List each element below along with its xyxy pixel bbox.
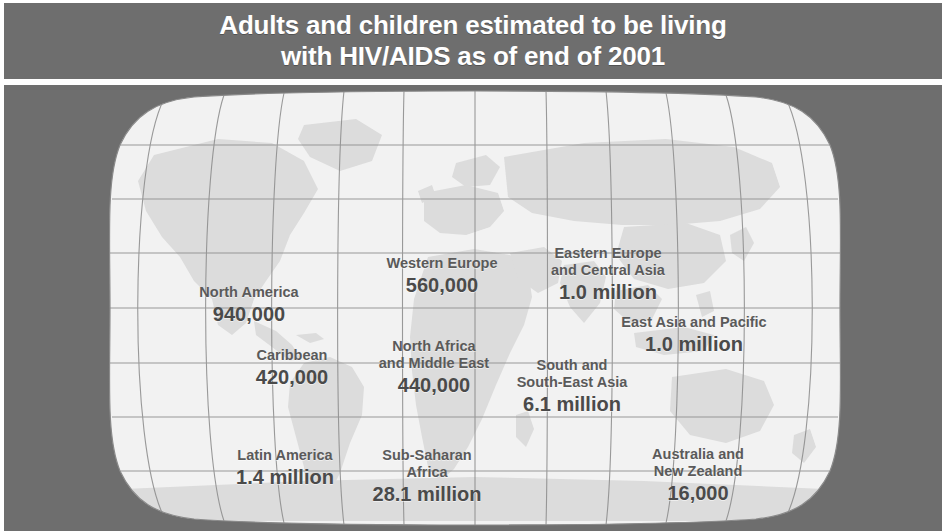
poster-title-band: Adults and children estimated to be livi… <box>4 3 942 79</box>
title-line-1: Adults and children estimated to be livi… <box>219 10 726 41</box>
world-map-panel: North America 940,000 Western Europe 560… <box>4 85 942 531</box>
hiv-aids-world-map-poster: Adults and children estimated to be livi… <box>0 0 942 531</box>
world-map-graphic <box>4 85 942 531</box>
title-line-2: with HIV/AIDS as of end of 2001 <box>281 41 665 72</box>
